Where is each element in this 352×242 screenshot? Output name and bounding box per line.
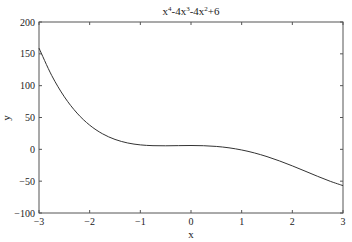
y-axis-label: y	[0, 115, 12, 121]
chart-title: x4-4x3-4x2+6	[162, 5, 220, 17]
svg-text:x4-4x3-4x2+6: x4-4x3-4x2+6	[162, 5, 220, 17]
y-tick-label: 0	[30, 144, 35, 155]
x-tick-label: 3	[341, 216, 346, 227]
y-tick-label: 200	[20, 17, 35, 28]
x-tick-label: 1	[239, 216, 244, 227]
x-tick-label: −2	[84, 216, 95, 227]
x-tick-label: −1	[135, 216, 146, 227]
x-tick-label: 2	[290, 216, 295, 227]
x-tick-label: 0	[189, 216, 194, 227]
y-tick-label: 150	[20, 48, 35, 59]
x-axis-label: x	[188, 228, 194, 240]
x-tick-label: −3	[34, 216, 45, 227]
plot-area	[39, 22, 343, 213]
y-tick-label: −50	[19, 176, 35, 187]
y-tick-label: 100	[20, 80, 35, 91]
line-chart: x4-4x3-4x2+6 −3−2−10123 −100−50050100150…	[0, 0, 352, 242]
y-tick-label: −100	[14, 208, 35, 219]
y-tick-label: 50	[25, 112, 35, 123]
